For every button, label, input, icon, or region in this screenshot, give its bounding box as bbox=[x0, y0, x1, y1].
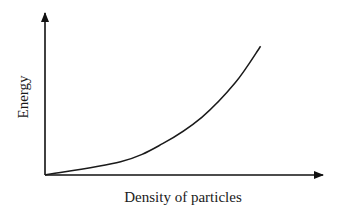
energy-density-diagram: Energy Density of particles bbox=[0, 0, 337, 216]
x-axis-label: Density of particles bbox=[124, 189, 242, 205]
energy-curve bbox=[45, 46, 261, 175]
y-axis-label: Energy bbox=[15, 75, 31, 119]
